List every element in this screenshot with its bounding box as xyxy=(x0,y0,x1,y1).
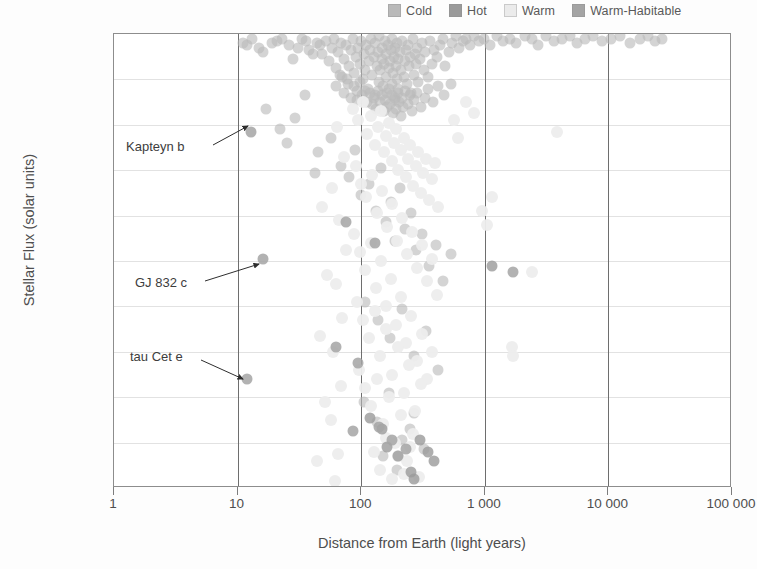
x-axis-tick-mark xyxy=(360,487,361,495)
x-axis-tick-mark xyxy=(484,487,485,495)
vertical-gridline xyxy=(238,34,239,486)
data-point-warm xyxy=(332,448,344,460)
data-point-warm xyxy=(460,96,472,108)
x-axis-title: Distance from Earth (light years) xyxy=(113,535,731,551)
data-point-warm xyxy=(452,132,464,144)
legend-item-label: Hot xyxy=(467,4,487,18)
data-point-cold xyxy=(394,183,405,194)
data-point-warm xyxy=(357,314,369,326)
data-point-warm xyxy=(395,409,407,421)
data-point-warm xyxy=(386,473,398,485)
x-axis-tick-label: 1 xyxy=(68,496,158,511)
data-point-warm xyxy=(330,278,342,290)
data-point-warm xyxy=(380,323,392,335)
horizontal-gridline xyxy=(114,125,730,126)
data-point-cold xyxy=(533,40,544,51)
data-point-cold xyxy=(343,172,354,183)
data-point-warm-habitable xyxy=(353,358,364,369)
legend-item-warm-habitable[interactable]: Warm-Habitable xyxy=(572,4,681,18)
data-point-warm xyxy=(448,114,460,126)
data-point-warm xyxy=(476,205,488,217)
legend-item-hot[interactable]: Hot xyxy=(449,4,487,18)
data-point-warm xyxy=(354,246,366,258)
data-point-warm xyxy=(409,405,421,417)
data-point-cold xyxy=(445,249,456,260)
data-point-warm xyxy=(363,332,375,344)
x-axis-tick-label: 1 000 xyxy=(439,496,529,511)
data-point-cold xyxy=(439,90,450,101)
data-point-warm-habitable xyxy=(370,237,381,248)
data-point-warm xyxy=(396,212,408,224)
data-point-cold xyxy=(277,33,288,44)
data-point-warm xyxy=(370,282,382,294)
legend-item-warm[interactable]: Warm xyxy=(504,4,555,18)
data-point-warm xyxy=(386,369,398,381)
data-point-warm xyxy=(325,414,337,426)
data-point-warm xyxy=(351,296,363,308)
data-point-warm xyxy=(385,273,397,285)
data-point-cold xyxy=(313,147,324,158)
data-point-cold xyxy=(440,60,451,71)
data-point-warm xyxy=(350,160,362,172)
data-point-cold xyxy=(484,40,495,51)
data-point-warm xyxy=(336,312,348,324)
data-point-warm xyxy=(375,105,387,117)
x-axis-tick-mark xyxy=(607,487,608,495)
data-point-warm xyxy=(398,387,410,399)
legend-item-label: Cold xyxy=(406,4,432,18)
data-point-warm xyxy=(311,455,323,467)
x-axis-tick-label: 10 000 xyxy=(562,496,652,511)
data-point-warm xyxy=(371,373,383,385)
legend-item-cold[interactable]: Cold xyxy=(388,4,432,18)
data-point-warm xyxy=(486,191,498,203)
data-point-warm xyxy=(357,96,369,108)
horizontal-gridline xyxy=(114,352,730,353)
data-point-warm-habitable xyxy=(241,374,252,385)
vertical-gridline xyxy=(485,34,486,486)
data-point-warm xyxy=(359,382,371,394)
data-point-warm xyxy=(314,330,326,342)
data-point-warm xyxy=(411,262,423,274)
data-point-warm-habitable xyxy=(508,267,519,278)
legend-swatch-icon xyxy=(388,4,401,17)
data-point-hot xyxy=(409,473,420,484)
data-point-warm xyxy=(348,228,360,240)
data-point-hot xyxy=(415,435,426,446)
data-point-cold xyxy=(287,54,298,65)
x-axis-tick-label: 10 xyxy=(192,496,282,511)
data-point-cold xyxy=(301,35,312,46)
data-point-cold xyxy=(261,103,272,114)
data-point-cold xyxy=(274,124,285,135)
data-point-warm-habitable xyxy=(400,444,411,455)
data-point-warm xyxy=(355,178,367,190)
data-point-warm xyxy=(403,359,415,371)
data-point-cold xyxy=(445,78,456,89)
data-point-warm xyxy=(360,191,372,203)
data-point-warm xyxy=(406,226,418,238)
x-axis-tick-mark xyxy=(731,487,732,495)
data-point-warm xyxy=(326,182,338,194)
data-point-warm-habitable xyxy=(374,421,385,432)
data-point-cold xyxy=(427,97,438,108)
data-point-warm xyxy=(421,275,433,287)
legend-item-label: Warm-Habitable xyxy=(590,4,681,18)
data-point-warm xyxy=(468,107,480,119)
data-point-warm xyxy=(391,235,403,247)
legend-item-label: Warm xyxy=(522,4,555,18)
data-point-warm xyxy=(381,221,393,233)
data-point-warm xyxy=(335,380,347,392)
data-point-warm xyxy=(386,198,398,210)
data-point-warm xyxy=(416,239,428,251)
data-point-warm xyxy=(431,289,443,301)
x-axis-tick-mark xyxy=(113,487,114,495)
data-point-warm xyxy=(371,207,383,219)
data-point-warm xyxy=(383,391,395,403)
data-point-cold xyxy=(431,51,442,62)
data-point-warm xyxy=(366,169,378,181)
data-point-warm xyxy=(368,446,380,458)
data-point-cold xyxy=(433,365,444,376)
data-point-warm xyxy=(416,328,428,340)
data-point-warm-habitable xyxy=(386,435,397,446)
data-point-cold xyxy=(417,228,428,239)
annotation-label: GJ 832 c xyxy=(135,275,187,290)
